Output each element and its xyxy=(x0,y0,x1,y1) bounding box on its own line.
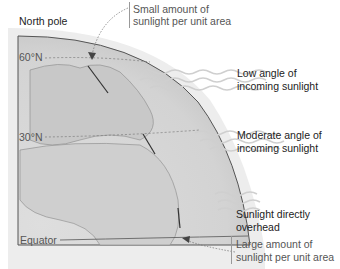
moderate-angle-line2: incoming sunlight xyxy=(237,142,318,154)
direct-sunlight-line1: Sunlight directly xyxy=(236,208,310,220)
annotation-bar-top xyxy=(129,2,130,28)
low-angle-line1: Low angle of xyxy=(237,67,297,79)
equator-label: Equator xyxy=(20,234,57,246)
direct-sunlight-line2: overhead xyxy=(236,221,280,233)
latitude-30n-label: 30°N xyxy=(19,131,42,143)
large-amount-line2: sunlight per unit area xyxy=(236,251,334,263)
low-angle-line2: incoming sunlight xyxy=(237,80,318,92)
small-amount-line1: Small amount of xyxy=(133,3,209,15)
north-pole-label: North pole xyxy=(19,15,67,27)
small-amount-line2: sunlight per unit area xyxy=(133,15,231,27)
large-amount-line1: Large amount of xyxy=(236,238,312,250)
moderate-angle-line1: Moderate angle of xyxy=(237,129,322,141)
latitude-60n-label: 60°N xyxy=(19,51,42,63)
annotation-bar-bottom xyxy=(231,236,232,264)
